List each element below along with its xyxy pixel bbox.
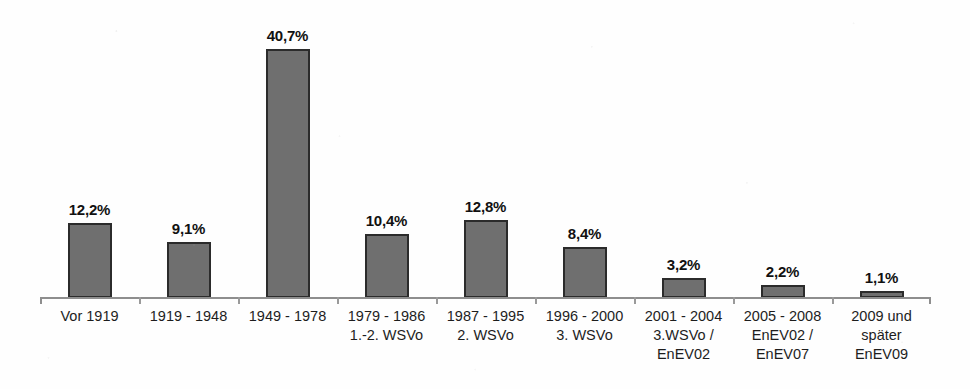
x-axis-end-cap-right <box>929 297 931 304</box>
bar-rect[interactable] <box>365 234 409 298</box>
bar-value-label: 8,4% <box>568 225 601 242</box>
bar-value-label: 12,8% <box>465 198 507 215</box>
bar-chart: 12,2% 9,1% 40,7% 10,4% 12,8% 8,4% 3,2% <box>0 0 970 389</box>
bar-value-label: 2,2% <box>766 263 799 280</box>
x-axis-tick <box>634 297 636 304</box>
x-axis-tick <box>436 297 438 304</box>
category-label: 1919 - 1948 <box>139 307 238 326</box>
bar-value-label: 1,1% <box>865 269 898 286</box>
bar-slot: 40,7% <box>238 10 337 298</box>
bar-rect[interactable] <box>662 278 706 298</box>
x-axis-end-cap-left <box>40 297 42 304</box>
bar-value-label: 3,2% <box>667 256 700 273</box>
category-label: 1949 - 1978 <box>238 307 337 326</box>
category-label: 2005 - 2008 EnEV02 / EnEV07 <box>733 307 832 364</box>
bar-slot: 12,2% <box>40 10 139 298</box>
bar-value-label: 12,2% <box>69 201 111 218</box>
x-axis-tick <box>832 297 834 304</box>
bar-slot: 12,8% <box>436 10 535 298</box>
bar-value-label: 40,7% <box>267 27 309 44</box>
bar-rect[interactable] <box>761 285 805 299</box>
plot-area: 12,2% 9,1% 40,7% 10,4% 12,8% 8,4% 3,2% <box>40 10 930 298</box>
bar-slot: 8,4% <box>535 10 634 298</box>
bar-value-label: 9,1% <box>172 220 205 237</box>
category-label: 1987 - 1995 2. WSVo <box>436 307 535 345</box>
bar-slot: 3,2% <box>634 10 733 298</box>
bar-rect[interactable] <box>68 223 112 298</box>
bar-rect[interactable] <box>464 220 508 298</box>
bar-rect[interactable] <box>266 49 310 298</box>
bar-slot: 9,1% <box>139 10 238 298</box>
x-axis-line <box>40 297 931 299</box>
category-label: 1979 - 1986 1.-2. WSVo <box>337 307 436 345</box>
x-axis-tick <box>733 297 735 304</box>
x-axis-tick <box>535 297 537 304</box>
category-label: 2009 und später EnEV09 <box>832 307 931 364</box>
bar-rect[interactable] <box>563 247 607 298</box>
category-label: 1996 - 2000 3. WSVo <box>535 307 634 345</box>
category-label: 2001 - 2004 3.WSVo / EnEV02 <box>634 307 733 364</box>
x-axis-tick <box>238 297 240 304</box>
bar-slot: 10,4% <box>337 10 436 298</box>
category-label: Vor 1919 <box>40 307 139 326</box>
bar-rect[interactable] <box>167 242 211 298</box>
x-axis-tick <box>139 297 141 304</box>
x-axis-category-labels: Vor 1919 1919 - 1948 1949 - 1978 1979 - … <box>40 307 930 382</box>
x-axis-tick <box>337 297 339 304</box>
bar-value-label: 10,4% <box>366 212 408 229</box>
bar-slot: 2,2% <box>733 10 832 298</box>
bar-slot: 1,1% <box>832 10 931 298</box>
